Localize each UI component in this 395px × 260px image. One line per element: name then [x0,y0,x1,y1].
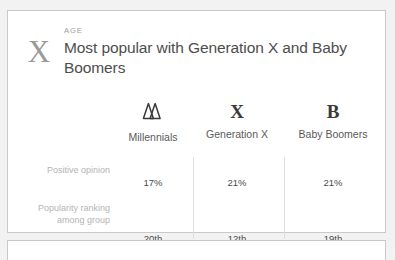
table-row: Popularity ranking among group 20th 12th… [8,199,385,243]
row-label-positive-opinion: Positive opinion [10,165,110,177]
category-eyebrow-label: AGE [64,26,375,36]
page-title: Most popular with Generation X and Baby … [64,38,375,78]
generation-x-letter-icon: X [185,99,289,125]
baby-boomers-letter-icon: B [281,99,385,125]
table-row: Positive opinion 17% 21% 21% [8,159,385,199]
demographics-table: Millennials X Generation X B Baby Boomer… [8,99,385,232]
row-label-popularity-ranking: Popularity ranking among group [10,203,110,226]
cell-positive-opinion-baby-boomers: 21% [281,177,385,188]
card-header-text: AGE Most popular with Generation X and B… [64,26,375,78]
column-header-generation-x: X Generation X [185,99,289,141]
cell-positive-opinion-generation-x: 21% [185,177,289,188]
column-header-baby-boomers: B Baby Boomers [281,99,385,141]
column-label-baby-boomers: Baby Boomers [281,127,385,141]
column-label-generation-x: Generation X [185,127,289,141]
card-header: X AGE Most popular with Generation X and… [8,11,385,95]
generation-x-badge-icon: X [16,35,62,69]
next-stat-card [7,240,386,260]
age-stat-card: X AGE Most popular with Generation X and… [7,10,386,233]
